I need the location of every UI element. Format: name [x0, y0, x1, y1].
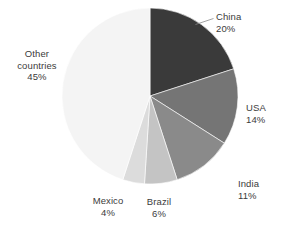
china-leader-line: [196, 19, 214, 25]
pie-chart-figure: China 20% USA 14% India 11% Brazil 6% Me…: [0, 0, 286, 230]
slice-label-china: China 20%: [216, 11, 241, 34]
usa-label-percent: 14%: [246, 114, 266, 126]
usa-label-text: USA: [246, 102, 266, 113]
slice-label-other-countries: Other countries 45%: [4, 48, 70, 83]
brazil-label-percent: 6%: [137, 208, 181, 220]
other-label-line1: Other: [25, 48, 49, 59]
slice-label-india: India 11%: [238, 178, 259, 201]
slice-label-mexico: Mexico 4%: [84, 195, 132, 218]
china-label-text: China: [216, 11, 241, 22]
india-label-text: India: [238, 178, 259, 189]
brazil-label-text: Brazil: [147, 196, 171, 207]
pie-slices-group: [62, 8, 238, 184]
india-label-percent: 11%: [238, 190, 259, 202]
china-label-percent: 20%: [216, 23, 241, 35]
other-label-percent: 45%: [4, 71, 70, 83]
slice-label-brazil: Brazil 6%: [137, 196, 181, 219]
slice-label-usa: USA 14%: [246, 102, 266, 125]
other-label-line2: countries: [4, 60, 70, 72]
mexico-label-text: Mexico: [93, 195, 124, 206]
mexico-label-percent: 4%: [84, 207, 132, 219]
